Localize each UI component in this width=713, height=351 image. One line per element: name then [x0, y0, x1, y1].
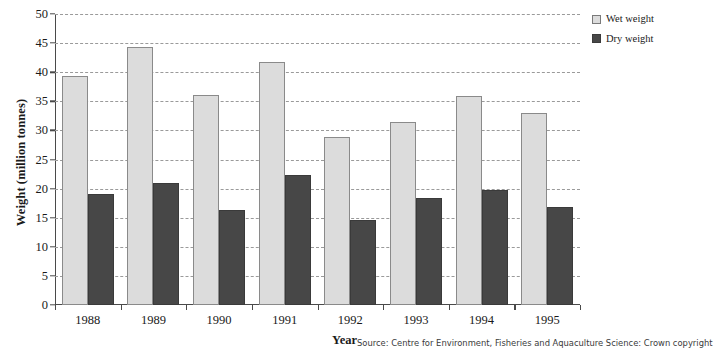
x-tick-mark: [318, 305, 319, 310]
y-tick-mark: [50, 159, 55, 160]
legend-swatch-wet-weight: [592, 15, 601, 24]
y-tick-label: 50: [36, 7, 49, 22]
bar-wet-1988: [62, 76, 88, 305]
legend-label-dry-weight: Dry weight: [606, 34, 654, 45]
y-tick-label: 45: [36, 36, 49, 51]
chart-legend: Wet weight Dry weight: [592, 14, 654, 53]
bar-group: [390, 14, 442, 305]
bar-wet-1992: [324, 137, 350, 305]
bar-group: [127, 14, 179, 305]
bar-dry-1992: [350, 220, 376, 305]
y-tick-label: 0: [42, 298, 48, 313]
bar-dry-1990: [219, 210, 245, 305]
bar-group: [521, 14, 573, 305]
x-tick-label-1992: 1992: [338, 313, 363, 328]
bar-group: [193, 14, 245, 305]
bar-wet-1989: [127, 47, 153, 305]
bar-wet-1990: [193, 95, 219, 305]
legend-label-wet-weight: Wet weight: [606, 14, 654, 25]
bar-dry-1994: [482, 190, 508, 305]
bar-group: [259, 14, 311, 305]
x-tick-mark: [55, 305, 56, 310]
x-tick-label-1993: 1993: [403, 313, 428, 328]
legend-item-dry-weight: Dry weight: [592, 34, 654, 45]
y-tick-mark: [50, 246, 55, 247]
x-tick-label-1989: 1989: [141, 313, 166, 328]
x-tick-mark: [580, 305, 581, 310]
source-note: Source: Centre for Environment, Fisherie…: [357, 338, 713, 348]
y-tick-label: 10: [36, 239, 49, 254]
bar-wet-1993: [390, 122, 416, 305]
x-tick-label-1990: 1990: [207, 313, 232, 328]
x-tick-mark: [121, 305, 122, 310]
y-tick-label: 5: [42, 268, 48, 283]
bar-wet-1995: [521, 113, 547, 305]
legend-item-wet-weight: Wet weight: [592, 14, 654, 25]
y-tick-mark: [50, 101, 55, 102]
y-tick-label: 15: [36, 210, 49, 225]
bar-wet-1994: [456, 96, 482, 305]
x-tick-mark: [383, 305, 384, 310]
y-tick-label: 20: [36, 181, 49, 196]
x-tick-label-1995: 1995: [535, 313, 560, 328]
bar-dry-1991: [285, 175, 311, 305]
bar-dry-1989: [153, 183, 179, 305]
x-tick-mark: [514, 305, 515, 310]
y-tick-mark: [50, 217, 55, 218]
y-tick-mark: [50, 42, 55, 43]
bar-dry-1995: [547, 207, 573, 305]
x-tick-mark: [186, 305, 187, 310]
x-tick-mark: [449, 305, 450, 310]
bar-wet-1991: [259, 62, 285, 305]
bar-group: [456, 14, 508, 305]
x-tick-label-1994: 1994: [469, 313, 494, 328]
bar-group: [62, 14, 114, 305]
y-tick-mark: [50, 130, 55, 131]
x-tick-mark: [252, 305, 253, 310]
y-tick-label: 25: [36, 152, 49, 167]
y-tick-label: 40: [36, 65, 49, 80]
y-axis-title: Weight (million tonnes): [14, 68, 29, 258]
bar-dry-1988: [88, 194, 114, 305]
y-tick-label: 35: [36, 94, 49, 109]
plot-area: 05101520253035404550: [55, 14, 580, 305]
y-tick-mark: [50, 13, 55, 14]
y-tick-mark: [50, 71, 55, 72]
y-tick-label: 30: [36, 123, 49, 138]
legend-swatch-dry-weight: [592, 34, 601, 43]
bar-dry-1993: [416, 198, 442, 305]
x-tick-label-1988: 1988: [75, 313, 100, 328]
y-tick-mark: [50, 275, 55, 276]
bar-group: [324, 14, 376, 305]
x-tick-label-1991: 1991: [272, 313, 297, 328]
y-tick-mark: [50, 188, 55, 189]
